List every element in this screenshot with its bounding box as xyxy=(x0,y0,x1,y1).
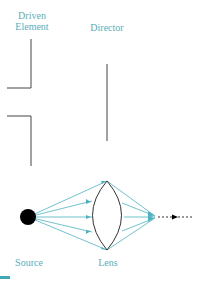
incoming-rays xyxy=(28,181,107,250)
accent-bar xyxy=(0,276,10,279)
ray-arrowheads xyxy=(86,181,106,250)
lens-shape xyxy=(93,181,122,250)
diagram-canvas xyxy=(0,0,203,281)
output-arrowhead xyxy=(172,215,178,220)
driven-element xyxy=(7,39,31,166)
lens-label: Lens xyxy=(93,257,123,268)
source-point xyxy=(20,209,36,225)
source-label: Source xyxy=(10,257,48,268)
